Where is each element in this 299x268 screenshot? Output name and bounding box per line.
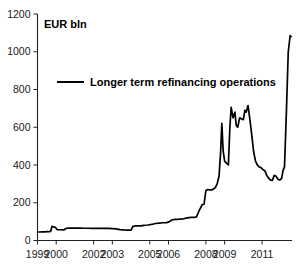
x-axis-ticks bbox=[38, 241, 263, 245]
y-axis-tick-label: 1200 bbox=[7, 8, 31, 20]
y-axis-unit-label: EUR bln bbox=[44, 18, 87, 30]
x-axis-tick-labels: 199920002002200320052006200820092011 bbox=[26, 248, 274, 260]
y-axis-tick-label: 800 bbox=[13, 83, 31, 95]
x-axis-tick-label: 2003 bbox=[101, 248, 125, 260]
chart-container: 020040060080010001200 199920002002200320… bbox=[0, 0, 299, 268]
series-line-longer-term-refinancing-operations bbox=[38, 36, 292, 232]
x-axis-tick-label: 2009 bbox=[213, 248, 237, 260]
y-axis-tick-label: 1000 bbox=[7, 45, 31, 57]
y-axis-tick-label: 0 bbox=[25, 234, 31, 246]
y-axis-tick-label: 600 bbox=[13, 121, 31, 133]
x-axis-tick-label: 2011 bbox=[251, 248, 274, 260]
line-chart: 020040060080010001200 199920002002200320… bbox=[0, 0, 299, 268]
legend-label: Longer term refinancing operations bbox=[90, 76, 276, 88]
x-axis-tick-label: 2006 bbox=[157, 248, 181, 260]
y-axis-tick-label: 400 bbox=[13, 159, 31, 171]
x-axis-tick-label: 2000 bbox=[45, 248, 69, 260]
y-axis-tick-label: 200 bbox=[13, 196, 31, 208]
chart-legend: Longer term refinancing operations bbox=[57, 76, 276, 88]
y-axis-tick-labels: 020040060080010001200 bbox=[7, 8, 31, 247]
y-axis-ticks bbox=[34, 14, 38, 241]
